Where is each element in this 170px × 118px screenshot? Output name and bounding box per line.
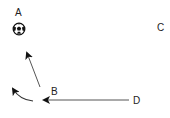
soccer-ball-icon (13, 23, 25, 35)
arrow-b-to-a (27, 53, 40, 87)
node-label-d: D (133, 96, 140, 106)
node-label-b: B (51, 87, 58, 97)
diagram-canvas (0, 0, 170, 118)
node-label-a: A (15, 8, 22, 18)
node-label-c: C (157, 23, 164, 33)
curved-arrow-icon (13, 89, 33, 101)
